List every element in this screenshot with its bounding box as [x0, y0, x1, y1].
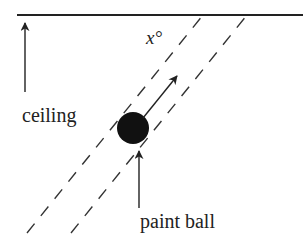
- ceiling-label: ceiling: [22, 104, 76, 127]
- paint-ball-label: paint ball: [140, 210, 215, 233]
- angle-label: x°: [145, 27, 162, 48]
- paint-ball-ceiling-diagram: x° ceiling paint ball: [0, 0, 303, 246]
- velocity-arrow: [143, 76, 177, 118]
